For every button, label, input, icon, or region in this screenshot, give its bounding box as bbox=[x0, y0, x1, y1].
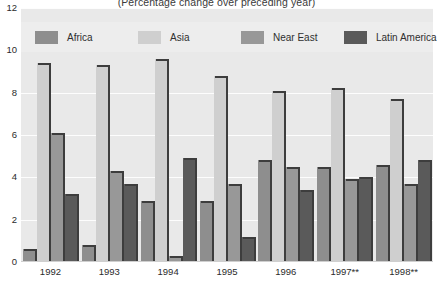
y-axis-label-6: 6 bbox=[0, 130, 17, 140]
y-axis-label-4: 4 bbox=[0, 172, 17, 182]
x-axis-label-1997: 1997** bbox=[315, 266, 374, 277]
x-axis-label-1998: 1998** bbox=[374, 266, 433, 277]
x-axis-label-1993: 1993 bbox=[80, 266, 139, 277]
x-axis-label-1995: 1995 bbox=[198, 266, 257, 277]
y-axis-label-10: 10 bbox=[0, 45, 17, 55]
x-axis-label-1996: 1996 bbox=[256, 266, 315, 277]
y-axis-label-8: 8 bbox=[0, 88, 17, 98]
y-axis-label-12: 12 bbox=[0, 3, 17, 13]
y-axis-label-2: 2 bbox=[0, 215, 17, 225]
x-axis-label-1992: 1992 bbox=[21, 266, 80, 277]
x-axis-label-1994: 1994 bbox=[139, 266, 198, 277]
y-axis-label-0: 0 bbox=[0, 257, 17, 267]
